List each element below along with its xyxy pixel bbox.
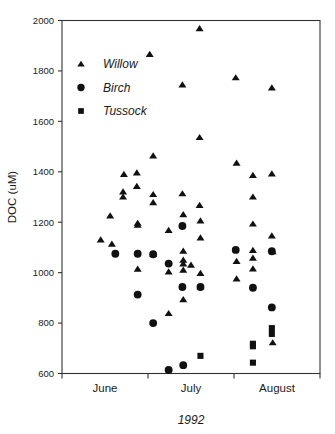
data-point-willow [232,74,240,80]
data-point-birch [249,284,257,292]
data-point-willow [149,191,157,197]
legend-label-tussock: Tussock [103,104,148,118]
data-point-willow [179,296,187,302]
data-point-birch [268,304,276,312]
x-tick-label-july: July [181,382,202,394]
y-tick-label: 1800 [33,65,54,76]
data-point-willow [106,212,114,218]
x-tick-label-june: June [93,382,118,394]
x-axis-tick-group: JuneJulyAugust [62,374,320,394]
data-points-layer [97,25,277,374]
data-point-willow [108,241,116,247]
x-axis-title: 1992 [178,413,205,427]
data-point-willow [249,172,257,178]
data-point-birch [149,319,157,327]
data-point-birch [178,222,186,230]
legend-marker-tussock [78,108,84,114]
plot-frame [62,21,320,374]
y-tick-label: 1400 [33,166,54,177]
data-point-willow [97,236,105,242]
data-point-willow [178,190,186,196]
data-point-willow [149,152,157,158]
data-point-willow [120,171,128,177]
data-point-willow [233,160,241,166]
data-point-willow [249,220,257,226]
chart-canvas: 200018001600140012001000800600 JuneJulyA… [0,0,335,434]
y-axis-title: DOC (uM) [6,171,18,224]
data-point-birch [134,250,142,258]
data-point-willow [165,310,173,316]
data-point-willow [165,268,173,274]
data-point-birch [134,291,142,299]
series-birch [111,222,275,374]
data-point-tussock [250,343,256,349]
data-point-willow [249,193,257,199]
data-point-willow [249,247,257,253]
data-point-willow [133,169,141,175]
data-point-birch [178,283,186,291]
data-point-willow [149,199,157,205]
data-point-tussock [197,353,203,359]
data-point-willow [179,248,187,254]
legend-marker-willow [77,61,84,67]
data-point-willow [268,84,276,90]
data-point-willow [179,211,187,217]
data-point-willow [165,227,173,233]
data-point-birch [165,260,173,268]
data-point-willow [178,81,186,87]
scatter-plot-figure: 200018001600140012001000800600 JuneJulyA… [0,0,335,434]
data-point-willow [133,183,141,189]
x-tick-label-august: August [259,382,296,394]
data-point-willow [196,25,204,31]
y-axis-tick-group: 200018001600140012001000800600 [33,15,62,379]
data-point-tussock [250,360,256,366]
y-tick-label: 1200 [33,217,54,228]
data-point-birch [111,250,119,258]
data-point-willow [268,170,276,176]
data-point-willow [233,275,241,281]
data-point-willow [233,258,241,264]
data-point-willow [196,134,204,140]
data-point-tussock [269,331,275,337]
data-point-willow [268,232,276,238]
data-point-birch [232,246,240,254]
data-point-willow [196,202,204,208]
data-point-birch [179,361,187,369]
data-point-birch [165,366,173,374]
data-point-willow [196,217,204,223]
data-point-willow [196,270,204,276]
y-tick-label: 1600 [33,116,54,127]
series-willow [97,25,277,345]
data-point-willow [179,267,187,273]
legend-marker-birch [77,84,84,91]
data-point-willow [134,266,142,272]
data-point-willow [249,254,257,260]
legend-label-birch: Birch [103,81,131,95]
y-tick-label: 600 [38,368,54,379]
y-tick-label: 800 [38,317,54,328]
data-point-willow [196,234,204,240]
data-point-tussock [269,325,275,331]
data-point-willow [146,51,154,57]
chart-legend: WillowBirchTussock [77,57,147,118]
data-point-willow [269,339,277,345]
series-tussock [197,325,274,366]
data-point-willow [249,265,257,271]
y-tick-label: 1000 [33,267,54,278]
legend-label-willow: Willow [103,57,139,71]
data-point-willow [187,261,195,267]
y-tick-label: 2000 [33,15,54,26]
